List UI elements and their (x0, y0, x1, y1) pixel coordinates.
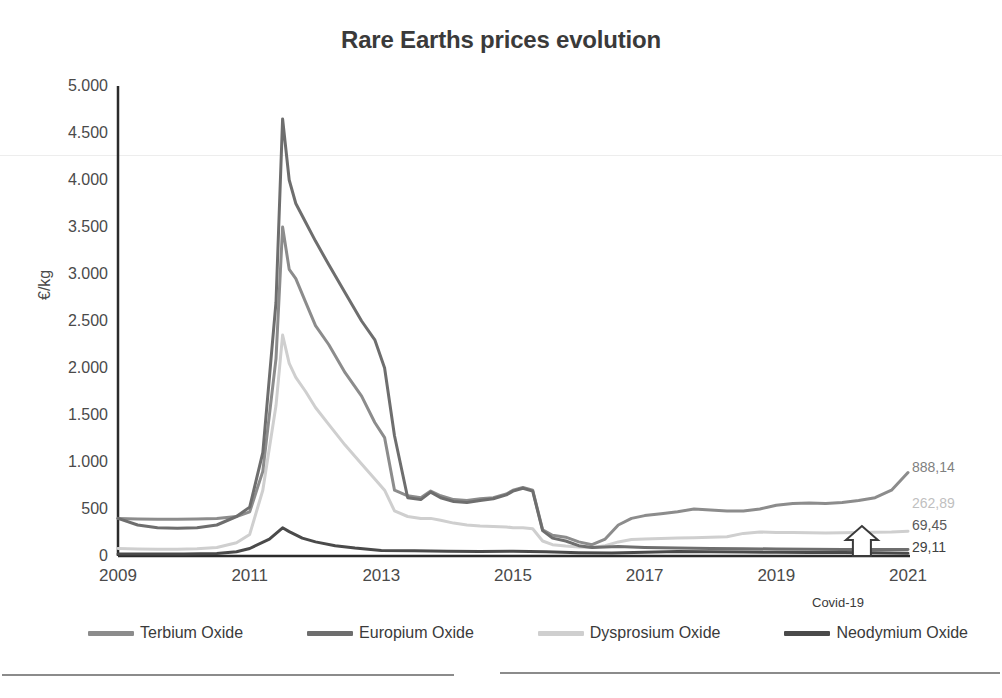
legend-swatch-icon (88, 631, 134, 636)
legend-label: Terbium Oxide (140, 624, 243, 642)
legend-label: Neodymium Oxide (836, 624, 968, 642)
legend-item-europium-oxide[interactable]: Europium Oxide (307, 624, 474, 642)
chart-figure: Rare Earths prices evolution €/kg 5.0004… (0, 0, 1002, 698)
covid-annotation-label: Covid-19 (812, 595, 864, 610)
legend-item-dysprosium-oxide[interactable]: Dysprosium Oxide (538, 624, 721, 642)
legend-item-neodymium-oxide[interactable]: Neodymium Oxide (784, 624, 968, 642)
series-end-label: 29,11 (912, 540, 946, 554)
series-line-terbium-oxide (118, 227, 908, 545)
series-end-label: 69,45 (912, 518, 947, 532)
legend-swatch-icon (538, 631, 584, 636)
plot-area (0, 0, 1002, 698)
page-rule-left (2, 674, 454, 676)
legend-item-terbium-oxide[interactable]: Terbium Oxide (88, 624, 243, 642)
legend-label: Europium Oxide (359, 624, 474, 642)
legend-swatch-icon (784, 631, 830, 636)
legend-swatch-icon (307, 631, 353, 636)
series-line-europium-oxide (118, 119, 908, 550)
series-end-label: 888,14 (912, 460, 955, 474)
chart-legend: Terbium OxideEuropium OxideDysprosium Ox… (88, 620, 968, 646)
page-rule-right (500, 672, 1000, 674)
series-end-label: 262,89 (912, 496, 955, 510)
legend-label: Dysprosium Oxide (590, 624, 721, 642)
